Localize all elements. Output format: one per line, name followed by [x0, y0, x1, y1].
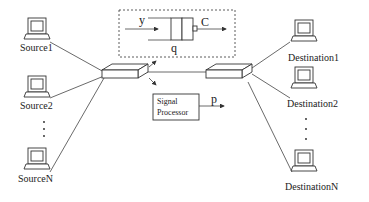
source-1-computer-icon: [24, 18, 50, 39]
source-2-computer-icon: [24, 76, 50, 97]
source-n-label: SourceN: [18, 173, 53, 184]
source-2-label: Source2: [20, 100, 53, 111]
destination-1-computer-icon: [291, 20, 317, 41]
destination-n-computer-icon: [291, 150, 317, 171]
signal-processor-line1: Signal: [157, 97, 178, 106]
destination-1-label: Destination1: [288, 52, 339, 63]
arrow-to-processor: [149, 78, 156, 85]
right-switch-icon: [206, 64, 252, 78]
sources-ellipsis: [43, 121, 45, 137]
queue-model: y C q: [119, 10, 235, 57]
arrow-to-queue: [149, 61, 156, 67]
destination-n-label: DestinationN: [285, 181, 338, 192]
network-diagram: Source1 Source2 SourceN y C q Si: [0, 0, 369, 202]
destination-2-computer-icon: [291, 67, 317, 88]
destination-2-label: Destination2: [287, 98, 338, 109]
signal-processor-line2: Processor: [157, 108, 188, 117]
processor-output-label: p: [211, 92, 217, 106]
source-n-computer-icon: [24, 148, 50, 169]
signal-processor: Signal Processor p: [153, 92, 224, 120]
source-1-label: Source1: [20, 42, 53, 53]
queue-input-label: y: [139, 13, 145, 27]
destinations-ellipsis: [305, 118, 307, 140]
queue-label: q: [171, 41, 177, 55]
left-switch-icon: [102, 64, 148, 78]
queue-output-label: C: [201, 15, 209, 29]
